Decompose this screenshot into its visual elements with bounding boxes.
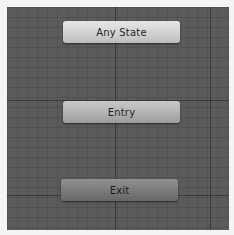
grid-major-line-vertical bbox=[210, 7, 211, 230]
exit-node-label: Exit bbox=[110, 185, 130, 196]
state-machine-canvas[interactable]: Any State Entry Exit bbox=[7, 7, 229, 230]
any-state-node[interactable]: Any State bbox=[63, 21, 180, 43]
any-state-node-label: Any State bbox=[96, 27, 147, 38]
entry-node-label: Entry bbox=[108, 107, 136, 118]
exit-node[interactable]: Exit bbox=[61, 179, 178, 201]
entry-node[interactable]: Entry bbox=[63, 101, 180, 123]
